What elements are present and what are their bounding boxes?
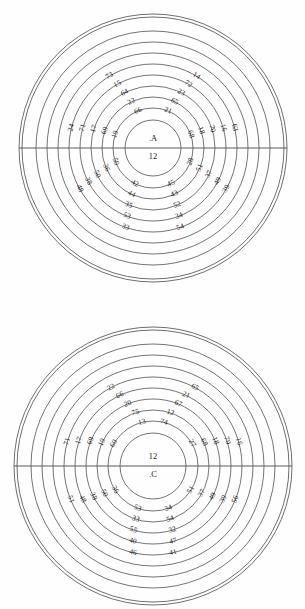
ring-label: 75 bbox=[130, 406, 140, 417]
ring-label: 17 bbox=[73, 435, 84, 445]
ring-label: 15 bbox=[112, 78, 123, 90]
ring-label: 36 bbox=[101, 162, 112, 173]
ring-label: 35 bbox=[124, 199, 135, 210]
ring-label: 67 bbox=[173, 398, 184, 409]
ring-label: 69 bbox=[99, 125, 110, 135]
ring-label: 70 bbox=[207, 124, 218, 134]
ring-label: 39 bbox=[220, 183, 232, 194]
ring-label: 53 bbox=[122, 210, 133, 221]
diagram-c-svg: 1374602736515334751219685037335420676918… bbox=[0, 300, 305, 609]
ring-label: 18 bbox=[196, 125, 207, 135]
ring-label: 71 bbox=[77, 123, 88, 133]
ring-label: 32 bbox=[167, 524, 177, 535]
ring-label: 54 bbox=[165, 513, 175, 524]
center-label-1: .C bbox=[149, 470, 157, 479]
ring-label: 66 bbox=[114, 389, 125, 400]
ring-label: 37 bbox=[203, 168, 214, 179]
ring-label: 37 bbox=[196, 487, 208, 498]
ring-label: 66 bbox=[133, 105, 144, 116]
ring-label: 65 bbox=[170, 95, 181, 106]
ring-label: 22 bbox=[126, 95, 137, 106]
ring-label: 41 bbox=[168, 547, 178, 558]
ring-label: 63 bbox=[230, 123, 241, 133]
ring-label: 44 bbox=[126, 188, 137, 199]
ring-label: 24 bbox=[65, 123, 76, 133]
ring-label: 50 bbox=[92, 169, 103, 180]
ring-label: 39 bbox=[217, 493, 228, 504]
ring-label: 45 bbox=[165, 177, 176, 189]
ring-label: 34 bbox=[174, 210, 185, 221]
ring-label: 19 bbox=[96, 436, 107, 447]
ring-label: 42 bbox=[130, 177, 141, 189]
ring-label: 47 bbox=[168, 535, 178, 546]
ring-label: 52 bbox=[172, 199, 183, 210]
ring-label: 21 bbox=[181, 389, 192, 400]
ring-label: 33 bbox=[121, 221, 131, 232]
ring-label: 54 bbox=[175, 221, 185, 232]
ring-label: 72 bbox=[183, 78, 194, 90]
ring-label: 19 bbox=[109, 129, 120, 139]
ring-label: 12 bbox=[166, 407, 176, 418]
ring-label: 13 bbox=[137, 416, 147, 427]
ring-label: 51 bbox=[194, 162, 205, 173]
ring-label: 69 bbox=[85, 435, 96, 446]
ring-label: 51 bbox=[66, 494, 77, 505]
ring-label: 33 bbox=[131, 513, 141, 524]
ring-label: 20 bbox=[122, 397, 133, 408]
ring-label: 36 bbox=[110, 484, 122, 495]
ring-label: 49 bbox=[212, 175, 224, 186]
diagram-c: 1374602736515334751219685037335420676918… bbox=[0, 300, 305, 609]
ring-label: 48 bbox=[77, 493, 88, 504]
ring-label: 74 bbox=[159, 416, 169, 427]
ring-label: 43 bbox=[169, 188, 180, 199]
ring-label: 16 bbox=[234, 436, 245, 446]
center-label-0: 12 bbox=[149, 452, 157, 461]
ring-label: 65 bbox=[190, 381, 201, 393]
diagram-a-labels: 6621196859284245226569183651444364231770… bbox=[65, 69, 240, 232]
ring-label: 27 bbox=[187, 438, 199, 449]
ring-label: 64 bbox=[119, 86, 130, 98]
ring-label: 34 bbox=[163, 502, 173, 513]
ring-label: 28 bbox=[184, 156, 195, 166]
diagram-a-svg: 6621196859284245226569183651444364231770… bbox=[0, 0, 305, 300]
diagram-a: 6621196859284245226569183651444364231770… bbox=[0, 0, 305, 300]
diagram-c-center: 12.C bbox=[149, 452, 157, 479]
ring-label: 48 bbox=[74, 183, 86, 194]
ring-label: 60 bbox=[108, 437, 120, 448]
center-label-1: 12 bbox=[149, 152, 157, 161]
diagram-page: 6621196859284245226569183651444364231770… bbox=[0, 0, 305, 609]
ring-label: 22 bbox=[105, 381, 116, 393]
diagram-a-center: .A12 bbox=[149, 134, 157, 161]
ring-label: 23 bbox=[176, 86, 187, 98]
ring-label: 55 bbox=[129, 524, 139, 535]
ring-label: 49 bbox=[206, 490, 218, 501]
ring-label: 18 bbox=[210, 435, 221, 446]
ring-label: 17 bbox=[88, 123, 99, 133]
ring-label: 71 bbox=[61, 436, 72, 446]
ring-label: 53 bbox=[133, 502, 143, 513]
ring-label: 50 bbox=[99, 487, 111, 498]
ring-label: 38 bbox=[83, 175, 95, 186]
ring-label: 38 bbox=[88, 491, 100, 502]
ring-label: 16 bbox=[219, 123, 230, 133]
center-label-0: .A bbox=[149, 134, 157, 143]
ring-label: 59 bbox=[111, 156, 122, 166]
ring-label: 51 bbox=[185, 484, 197, 495]
ring-label: 46 bbox=[128, 547, 138, 558]
ring-label: 40 bbox=[128, 535, 138, 546]
ring-label: 70 bbox=[222, 435, 233, 445]
ring-label: 56 bbox=[229, 494, 240, 505]
ring-label: 68 bbox=[199, 437, 210, 448]
ring-label: 68 bbox=[186, 129, 197, 139]
ring-label: 21 bbox=[163, 105, 174, 116]
